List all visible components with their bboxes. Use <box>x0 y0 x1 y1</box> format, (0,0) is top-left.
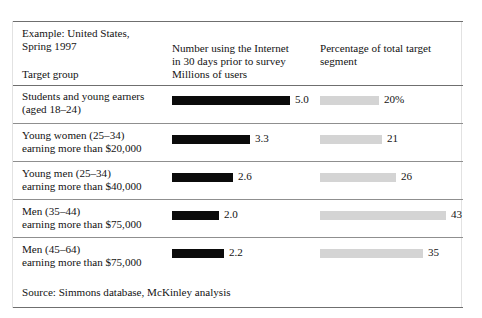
percent-column-header-line-2: segment <box>320 55 357 67</box>
percent-bar-value: 43 <box>451 207 462 222</box>
percent-column-header: Percentage of total target segment <box>320 42 463 68</box>
top-rule <box>13 21 463 22</box>
percent-bar <box>320 211 446 220</box>
chart-title-line-2: Spring 1997 <box>22 40 77 52</box>
bottom-rule <box>13 307 463 308</box>
users-bar-value: 3.3 <box>255 131 269 146</box>
users-bar-value: 2.0 <box>224 207 238 222</box>
chart-row: Young men (25–34)earning more than $40,0… <box>13 161 463 199</box>
users-column-header-line-2: in 30 days prior to survey <box>172 55 286 67</box>
users-column-header-line-1: Number using the Internet <box>172 42 289 54</box>
users-bar-value: 2.6 <box>238 169 252 184</box>
row-label-line: Young women (25–34) <box>22 129 174 142</box>
percent-bar-value: 35 <box>428 245 439 260</box>
chart-row: Men (45–64)earning more than $75,0002.23… <box>13 237 463 275</box>
chart-header: Example: United States, Spring 1997 Targ… <box>13 25 463 85</box>
row-label-line: earning more than $75,000 <box>22 256 174 269</box>
users-bar-value: 2.2 <box>229 245 243 260</box>
row-label-line: earning more than $75,000 <box>22 218 174 231</box>
row-label-line: Young men (25–34) <box>22 167 174 180</box>
users-bar <box>172 135 250 144</box>
users-bar <box>172 173 233 182</box>
row-label-line: (aged 18–24) <box>22 103 174 116</box>
source-note: Source: Simmons database, McKinley analy… <box>22 286 231 300</box>
row-label-line: earning more than $40,000 <box>22 180 174 193</box>
chart-title-line-1: Example: United States, <box>22 27 130 39</box>
row-label: Young men (25–34)earning more than $40,0… <box>22 167 174 193</box>
row-label: Men (35–44)earning more than $75,000 <box>22 205 174 231</box>
percent-bar-cell: 26 <box>320 171 463 187</box>
row-label-line: Men (45–64) <box>22 243 174 256</box>
percent-bar-value: 26 <box>401 169 412 184</box>
chart-rows: Students and young earners(aged 18–24)5.… <box>13 85 463 275</box>
chart-row: Young women (25–34)earning more than $20… <box>13 123 463 161</box>
users-column-header-line-3: Millions of users <box>172 68 247 80</box>
users-bar <box>172 211 219 220</box>
users-bar-cell: 3.3 <box>172 133 320 149</box>
users-bar-cell: 2.2 <box>172 247 320 263</box>
chart-row: Men (35–44)earning more than $75,0002.04… <box>13 199 463 237</box>
row-label-line: Students and young earners <box>22 90 174 103</box>
percent-bar-cell: 20% <box>320 94 463 110</box>
row-label-line: earning more than $20,000 <box>22 142 174 155</box>
percent-bar-cell: 35 <box>320 247 463 263</box>
users-bar <box>172 96 290 105</box>
users-bar-cell: 2.0 <box>172 209 320 225</box>
row-label: Young women (25–34)earning more than $20… <box>22 129 174 155</box>
percent-bar <box>320 249 423 258</box>
users-bar-value: 5.0 <box>295 92 309 107</box>
percent-bar <box>320 173 396 182</box>
users-column-header: Number using the Internet in 30 days pri… <box>172 42 320 82</box>
percent-column-header-line-1: Percentage of total target <box>320 42 431 54</box>
percent-bar-value: 20% <box>384 92 404 107</box>
users-bar-cell: 2.6 <box>172 171 320 187</box>
users-bar-cell: 5.0 <box>172 94 320 110</box>
percent-bar-cell: 43 <box>320 209 463 225</box>
row-label: Students and young earners(aged 18–24) <box>22 90 174 116</box>
percent-bar-value: 21 <box>387 131 398 146</box>
chart-figure: Example: United States, Spring 1997 Targ… <box>12 21 462 308</box>
users-bar <box>172 249 224 258</box>
row-label: Men (45–64)earning more than $75,000 <box>22 243 174 269</box>
percent-bar <box>320 96 379 105</box>
chart-row: Students and young earners(aged 18–24)5.… <box>13 85 463 123</box>
chart-title: Example: United States, Spring 1997 <box>22 27 172 53</box>
percent-bar <box>320 135 382 144</box>
target-group-header: Target group <box>22 68 172 81</box>
percent-bar-cell: 21 <box>320 133 463 149</box>
row-label-line: Men (35–44) <box>22 205 174 218</box>
